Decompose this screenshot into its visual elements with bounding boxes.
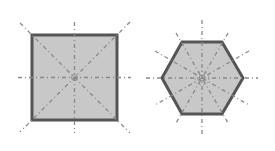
symmetry-diagram bbox=[0, 0, 275, 151]
square-figure bbox=[18, 22, 131, 133]
hexagon-figure bbox=[146, 20, 258, 136]
diagram-canvas bbox=[0, 0, 275, 151]
